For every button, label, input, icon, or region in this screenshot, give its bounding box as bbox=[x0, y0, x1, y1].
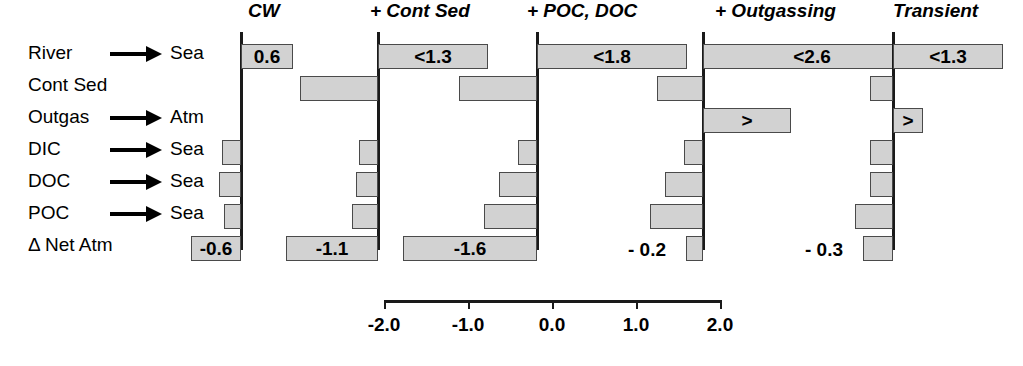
panel-5: Transient<1.3>- 0.3 bbox=[0, 0, 1023, 262]
co2-flux-bar-figure: RiverSeaCont SedOutgasAtmDICSeaDOCSeaPOC… bbox=[0, 0, 1023, 366]
axis-tick-label: -2.0 bbox=[368, 314, 401, 336]
axis-tick bbox=[468, 300, 470, 309]
bar bbox=[863, 236, 893, 261]
bar bbox=[855, 204, 893, 229]
panel-title: Transient bbox=[893, 0, 978, 22]
bar: > bbox=[893, 108, 923, 133]
axis-tick-label: 0.0 bbox=[539, 314, 565, 336]
bar bbox=[870, 140, 893, 165]
bar bbox=[870, 172, 893, 197]
axis-tick bbox=[384, 300, 386, 309]
axis-tick-label: -1.0 bbox=[452, 314, 485, 336]
axis-tick-label: 2.0 bbox=[707, 314, 733, 336]
axis-tick-label: 1.0 bbox=[623, 314, 649, 336]
axis-tick bbox=[636, 300, 638, 309]
axis-tick bbox=[552, 300, 554, 309]
bar-value-label: > bbox=[894, 110, 922, 132]
bar: <1.3 bbox=[893, 44, 1003, 69]
axis-tick bbox=[720, 300, 722, 309]
bar-value-label: <1.3 bbox=[894, 46, 1002, 68]
bar-value-label: - 0.3 bbox=[805, 239, 843, 261]
bar bbox=[870, 76, 893, 101]
